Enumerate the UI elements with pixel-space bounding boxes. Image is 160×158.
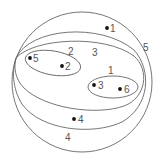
point-5-dot [28,56,32,60]
cluster-label-1: 1 [108,65,114,76]
point-6-label: 6 [124,84,130,95]
point-2-dot [60,64,64,68]
point-2-label: 2 [65,61,71,72]
cluster-label-4: 4 [65,132,71,143]
point-3-label: 3 [98,80,104,91]
point-4-dot [72,117,76,121]
nested-cluster-diagram: 5 4 3 2 1 1 5 2 3 6 4 [0,0,160,158]
point-3-dot [92,83,96,87]
cluster-label-2: 2 [68,46,74,57]
cluster-5-outline [12,12,152,152]
point-1-dot [105,26,109,30]
cluster-label-3: 3 [92,47,98,58]
point-1-label: 1 [110,23,116,34]
point-5-label: 5 [33,53,39,64]
point-6-dot [118,87,122,91]
cluster-1-outline [88,76,138,98]
diagram-canvas: 5 4 3 2 1 1 5 2 3 6 4 [0,0,160,158]
point-4-label: 4 [78,114,84,125]
cluster-label-5: 5 [143,42,149,53]
